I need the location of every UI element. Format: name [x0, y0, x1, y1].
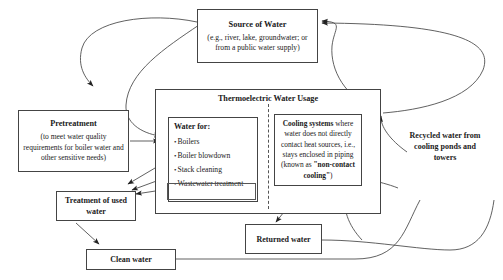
list-item-stack-cleaning: Stack cleaning	[174, 163, 222, 177]
returned-water-label: Returned water	[257, 234, 311, 245]
list-item-boiler-blowdown: Boiler blowdown	[174, 149, 230, 163]
node-cooling-systems: Cooling systems where water does not dir…	[274, 114, 362, 186]
pretreatment-title: Pretreatment	[50, 119, 97, 129]
usage-dashed-divider	[268, 104, 269, 209]
source-of-water-title: Source of Water	[229, 20, 287, 30]
arrow-source-to-left	[80, 18, 197, 86]
water-for-title: Water for:	[174, 122, 210, 131]
arrow-recycled-loop-to-usage	[381, 116, 407, 152]
cooling-systems-tail: )	[330, 171, 332, 180]
cooling-systems-text: Cooling systems where water does not dir…	[277, 119, 359, 181]
clean-water-label: Clean water	[110, 255, 152, 264]
treatment-used-water-label: Treatment of used water	[57, 195, 135, 217]
node-source-of-water: Source of Water (e.g., river, lake, grou…	[197, 9, 318, 63]
recycled-water-label: Recycled water from cooling ponds and to…	[409, 130, 481, 163]
node-clean-water: Clean water	[86, 249, 176, 270]
node-treatment-of-used-water: Treatment of used water	[56, 191, 136, 221]
cooling-systems-lead: Cooling systems	[283, 119, 334, 128]
diagram-canvas: Source of Water (e.g., river, lake, grou…	[0, 0, 503, 280]
node-pretreatment: Pretreatment (to meet water quality requ…	[18, 110, 129, 172]
thermoelectric-usage-title: Thermoelectric Water Usage	[218, 94, 318, 103]
list-item-boilers: Boilers	[174, 135, 199, 149]
node-returned-water: Returned water	[245, 224, 322, 254]
arrow-treatment-to-clean-water	[76, 223, 99, 244]
pretreatment-detail: (to meet water quality requirements for …	[22, 132, 125, 163]
source-of-water-detail: (e.g., river, lake, groundwater; or from…	[202, 33, 313, 53]
wastewater-treatment-highlight-box	[167, 183, 256, 200]
label-recycled-water: Recycled water from cooling ponds and to…	[409, 122, 481, 170]
